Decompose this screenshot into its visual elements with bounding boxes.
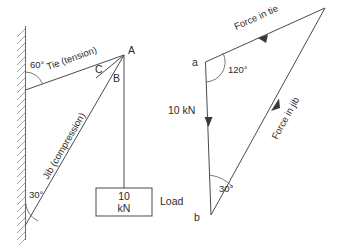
jib-member-label: Jib (compression) — [40, 111, 87, 181]
angle-b-value-label: 30° — [219, 183, 234, 194]
load-value-label: 10 — [118, 190, 130, 202]
wall-hatching — [17, 29, 25, 245]
vertex-label-a: a — [192, 56, 198, 68]
jib-crane-space-diagram: 60° 30° Tie (tension) Jib (compression) … — [17, 26, 184, 245]
jib-force-label: Force in jib — [269, 95, 301, 141]
load-vector-line — [206, 62, 212, 215]
figure-svg: 60° 30° Tie (tension) Jib (compression) … — [0, 0, 337, 250]
tie-force-label: Force in tie — [232, 2, 279, 31]
force-triangle-diagram: a b 120° 30° 10 kN Force in tie Force in… — [168, 2, 325, 223]
point-label-c: C — [95, 63, 103, 75]
jib-angle-arc — [26, 202, 39, 221]
load-vector-arrowhead — [205, 117, 213, 127]
jib-angle-label: 30° — [29, 189, 44, 200]
tie-member-label: Tie (tension) — [45, 44, 98, 72]
tie-angle-label: 60° — [30, 59, 45, 70]
load-force-label: 10 kN — [168, 104, 195, 116]
point-label-b: B — [113, 72, 120, 84]
figure-root: 60° 30° Tie (tension) Jib (compression) … — [0, 0, 337, 250]
vertex-label-b: b — [194, 211, 200, 223]
angle-a-value-label: 120° — [228, 64, 248, 75]
tie-angle-arc — [26, 72, 43, 84]
load-caption-label: Load — [160, 195, 184, 207]
point-label-a: A — [128, 44, 135, 56]
jib-force-arrowhead — [271, 99, 280, 112]
load-unit-label: kN — [118, 202, 131, 214]
